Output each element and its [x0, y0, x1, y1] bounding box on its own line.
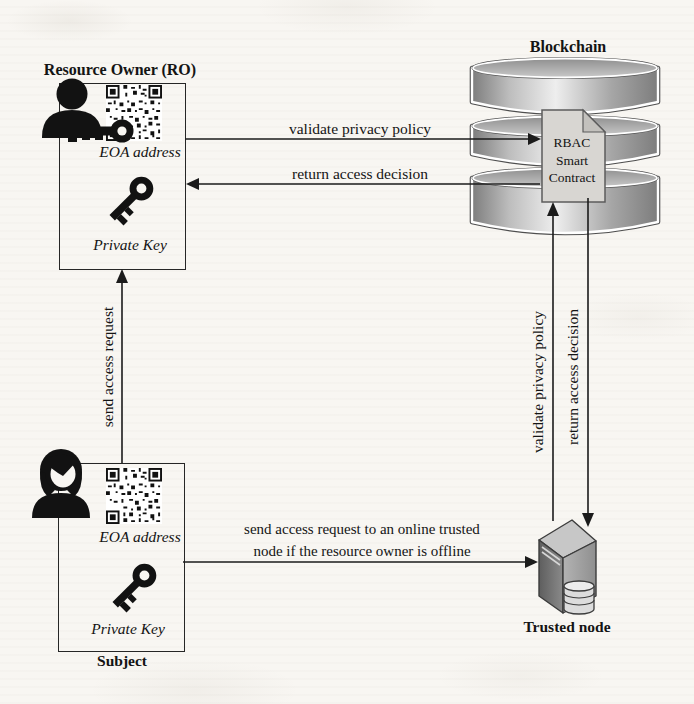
arrowhead-up — [116, 269, 128, 283]
eoa-address-label: EOA address — [92, 527, 188, 546]
diagram-canvas: Blockchain RBAC Smart — [0, 0, 694, 704]
woman-icon — [28, 447, 96, 521]
trusted-node-title: Trusted node — [515, 618, 619, 636]
label-return-decision-vertical: return access decision — [564, 277, 582, 477]
label-send-offline-request: send access request to an online trusted… — [212, 518, 512, 562]
subject-title: Subject — [70, 652, 174, 670]
private-key-label: Private Key — [78, 235, 182, 254]
label-validate-policy: validate privacy policy — [240, 119, 480, 138]
qr-code-icon — [106, 468, 162, 524]
label-return-decision: return access decision — [240, 164, 480, 183]
smart-contract-label: RBAC Smart Contract — [541, 134, 603, 187]
arrowhead-left — [186, 178, 199, 190]
person-with-key-icon — [30, 77, 140, 149]
private-key-icon — [101, 557, 163, 619]
label-send-access-request: send access request — [99, 267, 117, 467]
private-key-icon — [98, 170, 160, 232]
label-validate-policy-vertical: validate privacy policy — [529, 282, 547, 482]
server-icon — [530, 512, 610, 618]
private-key-label: Private Key — [76, 619, 180, 638]
